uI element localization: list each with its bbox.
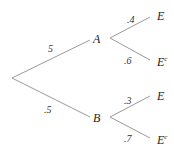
probability-tree-diagram: A B 5 .5 E Ec .4 .6 E Ec .3 .7 xyxy=(0,0,174,155)
prob-a-ec: .6 xyxy=(124,55,132,66)
prob-root-a: 5 xyxy=(48,43,53,54)
node-b-ec: Ec xyxy=(156,133,168,147)
prob-b-e: .3 xyxy=(124,95,132,106)
node-a-ec: Ec xyxy=(156,55,168,69)
node-a: A xyxy=(92,32,101,46)
prob-a-e: .4 xyxy=(127,14,135,25)
prob-b-ec: .7 xyxy=(124,133,133,144)
node-a-e: E xyxy=(156,9,165,23)
prob-root-b: .5 xyxy=(44,104,52,115)
node-b: B xyxy=(93,111,101,125)
node-b-e: E xyxy=(156,89,165,103)
